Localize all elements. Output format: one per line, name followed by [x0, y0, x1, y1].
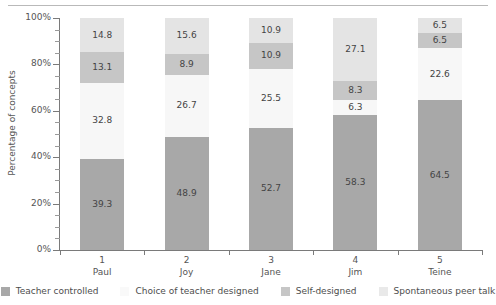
bar-segment[interactable]: 6.5 [418, 18, 462, 33]
x-axis-category-name: Paul [67, 266, 137, 278]
y-tick-label-text: 60% [3, 106, 51, 115]
bar-segment-value-label: 8.3 [348, 86, 362, 95]
x-axis-category: 4Jim [320, 254, 390, 278]
plot-area: 14.813.132.839.315.68.926.748.910.910.92… [60, 18, 482, 250]
x-axis-category-number: 3 [236, 254, 306, 266]
bar-segment-value-label: 48.9 [177, 189, 197, 198]
bar-segment[interactable]: 58.3 [333, 115, 377, 250]
y-tick-major [53, 204, 60, 205]
y-tick-major [53, 111, 60, 112]
x-axis-category-number: 2 [152, 254, 222, 266]
bar-segment-value-label: 32.8 [92, 116, 112, 125]
y-tick-label-text: 0% [3, 245, 51, 254]
bar-segment[interactable]: 6.5 [418, 33, 462, 48]
x-axis-category: 1Paul [67, 254, 137, 278]
bar-segment[interactable]: 27.1 [333, 18, 377, 81]
bar-segment[interactable]: 25.5 [249, 69, 293, 128]
y-tick-major [53, 18, 60, 19]
y-tick-label: 40% [0, 152, 51, 161]
bar-segment-value-label: 52.7 [261, 184, 281, 193]
bar-segment[interactable]: 15.6 [165, 18, 209, 54]
bar-segment-value-label: 10.9 [261, 51, 281, 60]
bar-segment-value-label: 25.5 [261, 94, 281, 103]
y-tick-label: 0% [0, 245, 51, 254]
legend-item[interactable]: Teacher controlled [1, 287, 99, 296]
legend-label: Choice of teacher designed [135, 287, 258, 296]
bar-segment-value-label: 27.1 [345, 45, 365, 54]
y-tick-label-text: 40% [3, 152, 51, 161]
bar-segment-value-label: 26.7 [177, 101, 197, 110]
bar-group[interactable]: 6.56.522.664.5 [418, 18, 462, 250]
bar-segment[interactable]: 48.9 [165, 137, 209, 250]
x-axis-category-name: Jane [236, 266, 306, 278]
legend-item[interactable]: Spontaneous peer talk [379, 287, 496, 296]
x-axis-category-name: Jim [320, 266, 390, 278]
x-axis-category-number: 1 [67, 254, 137, 266]
bar-segment-value-label: 22.6 [430, 70, 450, 79]
legend-label: Self-designed [296, 287, 357, 296]
x-tick [60, 250, 61, 255]
bar-segment-value-label: 6.3 [348, 103, 362, 112]
legend-item[interactable]: Choice of teacher designed [120, 287, 258, 296]
bar-segment[interactable]: 6.3 [333, 100, 377, 115]
y-tick-major [53, 64, 60, 65]
bar-segment[interactable]: 32.8 [80, 83, 124, 159]
bar-group[interactable]: 10.910.925.552.7 [249, 18, 293, 250]
bar-segment[interactable]: 8.9 [165, 54, 209, 75]
bar-group[interactable]: 15.68.926.748.9 [165, 18, 209, 250]
bar-segment[interactable]: 39.3 [80, 159, 124, 250]
bar-group[interactable]: 14.813.132.839.3 [80, 18, 124, 250]
y-tick-label-text: 80% [3, 59, 51, 68]
bar-segment[interactable]: 64.5 [418, 100, 462, 250]
bar-segment[interactable]: 52.7 [249, 128, 293, 250]
legend-label: Spontaneous peer talk [394, 287, 496, 296]
bar-segment[interactable]: 10.9 [249, 43, 293, 68]
chart-legend: Teacher controlledChoice of teacher desi… [0, 283, 496, 299]
x-axis-line [59, 250, 482, 251]
bar-segment[interactable]: 22.6 [418, 48, 462, 100]
y-tick-label: 20% [0, 199, 51, 208]
x-tick [482, 250, 483, 255]
bar-segment-value-label: 6.5 [433, 21, 447, 30]
x-tick [398, 250, 399, 255]
x-tick [313, 250, 314, 255]
bar-group[interactable]: 27.18.36.358.3 [333, 18, 377, 250]
y-tick-label: 80% [0, 59, 51, 68]
bar-segment-value-label: 13.1 [92, 63, 112, 72]
y-tick-label: 60% [0, 106, 51, 115]
legend-swatch-icon [281, 287, 290, 296]
bar-segment-value-label: 15.6 [177, 31, 197, 40]
bar-segment[interactable]: 14.8 [80, 18, 124, 52]
x-axis-category-number: 5 [405, 254, 475, 266]
stacked-bar-chart: Percentage of concepts 0%20%40%60%80%100… [0, 0, 496, 305]
x-axis-category-number: 4 [320, 254, 390, 266]
x-tick [229, 250, 230, 255]
y-tick-label-text: 20% [3, 199, 51, 208]
bar-segment-value-label: 58.3 [345, 178, 365, 187]
bar-segment-value-label: 6.5 [433, 36, 447, 45]
y-tick-major [53, 157, 60, 158]
bar-segment-value-label: 39.3 [92, 200, 112, 209]
legend-swatch-icon [379, 287, 388, 296]
x-axis-category: 2Joy [152, 254, 222, 278]
bar-segment[interactable]: 8.3 [333, 81, 377, 100]
legend-item[interactable]: Self-designed [281, 287, 357, 296]
legend-label: Teacher controlled [16, 287, 99, 296]
bar-segment-value-label: 14.8 [92, 31, 112, 40]
bar-segment[interactable]: 26.7 [165, 75, 209, 137]
legend-swatch-icon [120, 287, 129, 296]
y-tick-label: 100% [0, 13, 51, 22]
x-tick [144, 250, 145, 255]
bar-segment[interactable]: 13.1 [80, 52, 124, 82]
bar-segment-value-label: 10.9 [261, 26, 281, 35]
x-axis-category-name: Teine [405, 266, 475, 278]
y-tick-major [53, 250, 60, 251]
bar-segment-value-label: 8.9 [179, 60, 193, 69]
x-axis-category-name: Joy [152, 266, 222, 278]
legend-swatch-icon [1, 287, 10, 296]
x-axis-category: 3Jane [236, 254, 306, 278]
bar-segment-value-label: 64.5 [430, 171, 450, 180]
bar-segment[interactable]: 10.9 [249, 18, 293, 43]
y-tick-label-text: 100% [3, 13, 51, 22]
x-axis-category: 5Teine [405, 254, 475, 278]
